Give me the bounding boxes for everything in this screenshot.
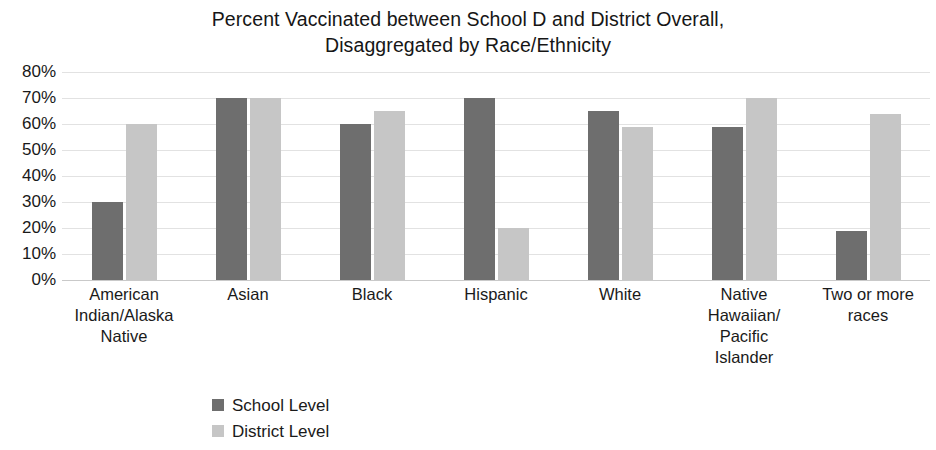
y-axis-tick-label: 50% — [0, 141, 56, 158]
y-axis: 80%70%60%50%40%30%20%10%0% — [0, 72, 56, 280]
bar — [374, 111, 405, 280]
x-axis-category-label-line: Islander — [669, 347, 819, 368]
x-axis-category-label-line: Indian/Alaska — [49, 305, 199, 326]
axis-baseline — [62, 280, 930, 281]
y-axis-tick-label: 40% — [0, 167, 56, 184]
legend-item-label: District Level — [232, 422, 329, 441]
y-axis-tick-label: 10% — [0, 245, 56, 262]
bar — [870, 114, 901, 280]
x-axis-category-label-line: Native — [49, 326, 199, 347]
x-axis: AmericanIndian/AlaskaNativeAsianBlackHis… — [62, 284, 930, 384]
y-axis-tick-label: 70% — [0, 89, 56, 106]
chart-title-line-1: Percent Vaccinated between School D and … — [0, 6, 936, 32]
bar-chart: Percent Vaccinated between School D and … — [0, 0, 936, 450]
y-axis-tick-label: 20% — [0, 219, 56, 236]
chart-legend: School LevelDistrict Level — [212, 392, 472, 444]
legend-swatch-icon — [212, 425, 224, 437]
bar — [836, 231, 867, 280]
bar-group — [340, 72, 405, 280]
x-axis-category-label: Two or moreraces — [793, 284, 936, 326]
bar-group — [92, 72, 157, 280]
bar — [340, 124, 371, 280]
legend-item-label: School Level — [232, 396, 329, 415]
y-axis-tick-label: 60% — [0, 115, 56, 132]
y-axis-tick-label: 30% — [0, 193, 56, 210]
bar — [622, 127, 653, 280]
y-axis-tick-label: 0% — [0, 271, 56, 288]
bar-group — [588, 72, 653, 280]
bar-group — [216, 72, 281, 280]
legend-item[interactable]: School Level — [212, 392, 472, 418]
bar — [712, 127, 743, 280]
chart-title: Percent Vaccinated between School D and … — [0, 6, 936, 58]
x-axis-category-label-line: Two or more — [793, 284, 936, 305]
bar — [216, 98, 247, 280]
bar — [498, 228, 529, 280]
legend-swatch-icon — [212, 399, 224, 411]
chart-title-line-2: Disaggregated by Race/Ethnicity — [0, 32, 936, 58]
plot-area — [62, 72, 930, 280]
legend-item[interactable]: District Level — [212, 418, 472, 444]
bar — [588, 111, 619, 280]
bar — [250, 98, 281, 280]
x-axis-category-label-line: races — [793, 305, 936, 326]
x-axis-category-label-line: Pacific — [669, 326, 819, 347]
bar — [92, 202, 123, 280]
bar — [464, 98, 495, 280]
bar-group — [712, 72, 777, 280]
bar-group — [836, 72, 901, 280]
bar — [126, 124, 157, 280]
y-axis-tick-label: 80% — [0, 63, 56, 80]
bar — [746, 98, 777, 280]
bar-group — [464, 72, 529, 280]
